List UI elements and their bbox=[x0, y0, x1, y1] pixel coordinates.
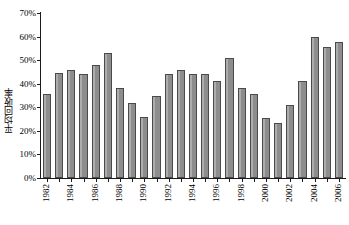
x-axis-tick-label: 1986 bbox=[91, 184, 100, 202]
bar bbox=[128, 103, 136, 178]
x-axis-tick-label: 1998 bbox=[237, 184, 246, 202]
y-axis-tick-label: 30% bbox=[20, 103, 37, 112]
x-axis-tick-label: 2006 bbox=[334, 184, 343, 202]
x-axis-tick-mark bbox=[242, 178, 243, 182]
x-axis-tick-label: 1984 bbox=[66, 184, 75, 202]
x-axis-tick-mark bbox=[59, 178, 60, 182]
x-axis-tick-label: 1982 bbox=[42, 184, 51, 202]
bar bbox=[79, 74, 87, 178]
x-axis-tick-mark bbox=[96, 178, 97, 182]
x-axis-tick-label: 2002 bbox=[285, 184, 294, 202]
y-axis-tick-label: 0% bbox=[24, 174, 36, 183]
y-axis-tick-label: 20% bbox=[20, 126, 37, 135]
bar bbox=[116, 88, 124, 178]
y-axis-tick-mark bbox=[37, 60, 41, 61]
bar bbox=[262, 118, 270, 178]
bar bbox=[140, 117, 148, 178]
plot-area: 0%10%20%30%40%50%60%70% bbox=[41, 13, 345, 178]
x-axis-tick-label: 2004 bbox=[310, 184, 319, 202]
y-axis-tick-mark bbox=[37, 131, 41, 132]
x-axis-tick-mark bbox=[193, 178, 194, 182]
bar bbox=[189, 74, 197, 178]
bar bbox=[67, 70, 75, 178]
x-axis-tick-mark bbox=[229, 178, 230, 182]
bar bbox=[201, 74, 209, 178]
x-axis-tick-mark bbox=[339, 178, 340, 182]
x-axis-tick-mark bbox=[132, 178, 133, 182]
x-axis-tick-label: 2000 bbox=[261, 184, 270, 202]
y-axis-tick-label: 10% bbox=[20, 150, 37, 159]
x-axis-tick-mark bbox=[108, 178, 109, 182]
x-axis-tick-mark bbox=[302, 178, 303, 182]
x-axis-tick-label: 1988 bbox=[115, 184, 124, 202]
x-axis-tick-mark bbox=[169, 178, 170, 182]
bar bbox=[55, 73, 63, 178]
x-axis-tick-mark bbox=[290, 178, 291, 182]
x-axis-tick-mark bbox=[315, 178, 316, 182]
x-axis-tick-mark bbox=[71, 178, 72, 182]
x-axis-tick-mark bbox=[84, 178, 85, 182]
y-axis-tick-mark bbox=[37, 178, 41, 179]
y-axis-title: 平均回收率 bbox=[1, 58, 15, 164]
bar bbox=[250, 94, 258, 178]
bar bbox=[43, 94, 51, 178]
x-axis-tick-mark bbox=[254, 178, 255, 182]
bar bbox=[335, 42, 343, 178]
y-axis-tick-mark bbox=[37, 154, 41, 155]
x-axis-tick-label: 1996 bbox=[212, 184, 221, 202]
y-axis-tick-label: 50% bbox=[20, 56, 37, 65]
bar bbox=[298, 81, 306, 178]
x-axis-tick-mark bbox=[266, 178, 267, 182]
x-axis-tick-mark bbox=[120, 178, 121, 182]
bar bbox=[177, 70, 185, 178]
x-axis-tick-mark bbox=[327, 178, 328, 182]
y-axis-tick-mark bbox=[37, 13, 41, 14]
x-axis-tick-label: 1990 bbox=[139, 184, 148, 202]
bar bbox=[165, 74, 173, 178]
x-axis-tick-mark bbox=[278, 178, 279, 182]
y-axis-tick-label: 70% bbox=[20, 9, 37, 18]
bar bbox=[286, 105, 294, 178]
y-axis-tick-label: 60% bbox=[20, 32, 37, 41]
x-axis-tick-mark bbox=[144, 178, 145, 182]
bar-chart: 平均回收率 0%10%20%30%40%50%60%70% 1982198419… bbox=[0, 0, 349, 225]
bar bbox=[92, 65, 100, 178]
bar bbox=[238, 88, 246, 178]
y-axis-tick-mark bbox=[37, 84, 41, 85]
y-axis-tick-label: 40% bbox=[20, 79, 37, 88]
y-axis-tick-mark bbox=[37, 37, 41, 38]
y-axis-tick-mark bbox=[37, 107, 41, 108]
bar bbox=[225, 58, 233, 178]
bar bbox=[323, 47, 331, 178]
bar bbox=[152, 96, 160, 179]
x-axis-tick-label: 1994 bbox=[188, 184, 197, 202]
bar bbox=[274, 123, 282, 178]
bar bbox=[104, 53, 112, 178]
bar bbox=[311, 37, 319, 178]
x-axis-tick-mark bbox=[217, 178, 218, 182]
x-axis-tick-mark bbox=[157, 178, 158, 182]
bar bbox=[213, 81, 221, 178]
x-axis-tick-label: 1992 bbox=[164, 184, 173, 202]
x-axis-tick-mark bbox=[205, 178, 206, 182]
x-axis-tick-mark bbox=[181, 178, 182, 182]
x-axis-tick-mark bbox=[47, 178, 48, 182]
